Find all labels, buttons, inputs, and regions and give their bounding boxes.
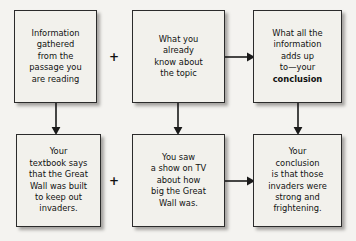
arrow-known-down-icon <box>171 103 185 135</box>
conclusion-summary-text: What all the information adds up to—your <box>272 28 322 72</box>
diagram-box-tv-show-great-wall-label: You saw a show on TV about how big the G… <box>151 152 207 209</box>
diagram-box-conclusion-summary: What all the information adds up to—your… <box>253 10 342 103</box>
diagram-box-conclusion-summary-label: What all the information adds up to—your… <box>272 28 322 85</box>
concept-diagram: Information gathered from the passage yo… <box>0 0 356 241</box>
diagram-box-conclusion-invaders-label: Your conclusion is that those invaders w… <box>268 146 327 215</box>
arrow-information-down-icon <box>49 103 63 135</box>
diagram-box-textbook-great-wall: Your textbook says that the Great Wall w… <box>16 134 101 227</box>
diagram-box-what-you-already-know-label: What you already know about the topic <box>154 34 203 80</box>
diagram-box-conclusion-invaders: Your conclusion is that those invaders w… <box>253 134 342 227</box>
diagram-box-textbook-great-wall-label: Your textbook says that the Great Wall w… <box>29 146 88 215</box>
diagram-box-information-gathered-label: Information gathered from the passage yo… <box>29 28 81 85</box>
plus-operator-top: + <box>109 51 119 63</box>
plus-operator-bottom: + <box>109 175 119 187</box>
arrow-tv-to-invaders-icon <box>225 174 255 188</box>
diagram-box-information-gathered: Information gathered from the passage yo… <box>14 10 97 103</box>
arrow-known-to-conclusion-icon <box>225 50 255 64</box>
conclusion-summary-bold-word: conclusion <box>273 74 323 84</box>
diagram-box-what-you-already-know: What you already know about the topic <box>132 10 225 103</box>
arrow-conclusion-down-icon <box>291 103 305 135</box>
diagram-box-tv-show-great-wall: You saw a show on TV about how big the G… <box>132 134 225 227</box>
